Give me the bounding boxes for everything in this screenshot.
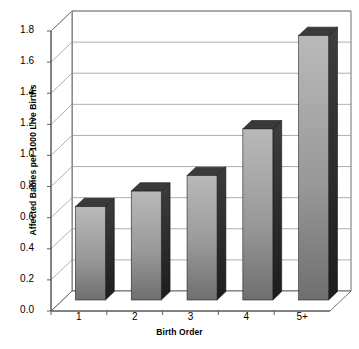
x-axis-tick-label: 1 [59,311,99,322]
chart-container: Affected Babies per 1000 Live Births 0.0… [0,0,359,349]
x-axis-tick-label: 4 [226,311,266,322]
x-axis-tick-label: 5+ [282,311,322,322]
x-axis-tick-label: 2 [115,311,155,322]
x-axis-tick-label: 3 [171,311,211,322]
x-axis-tick-labels: Birth Order 12345+ [0,0,359,349]
x-axis-title: Birth Order [0,327,359,337]
